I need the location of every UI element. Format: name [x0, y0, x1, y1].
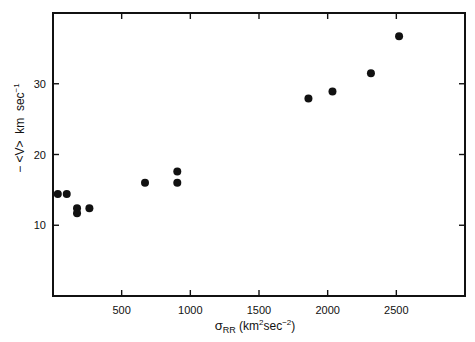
tick-labels: 5001000150020002500102030	[34, 78, 409, 316]
data-point	[328, 88, 336, 96]
y-axis-label-sup: −1	[12, 83, 21, 93]
data-point	[173, 179, 181, 187]
x-tick-label: 1000	[178, 304, 202, 316]
y-tick-label: 30	[34, 78, 46, 90]
x-axis-label-unit-close: )	[291, 319, 295, 333]
x-axis-label: σRR (km2sec−2)	[215, 318, 296, 335]
data-point	[367, 69, 375, 77]
x-axis-label-symbol: σ	[215, 318, 223, 333]
x-axis-label-unit-open: (km	[236, 319, 259, 333]
axis-ticks	[53, 13, 465, 296]
x-tick-label: 2000	[315, 304, 339, 316]
data-point	[304, 95, 312, 103]
x-tick-label: 500	[112, 304, 130, 316]
data-points	[54, 32, 403, 217]
plot-frame	[53, 13, 465, 296]
data-point	[63, 190, 71, 198]
y-axis-label: − <V> km sec−1	[12, 83, 27, 173]
data-point	[85, 204, 93, 212]
data-point	[173, 167, 181, 175]
data-point	[73, 209, 81, 217]
scatter-chart: 5001000150020002500102030 σRR (km2sec−2)…	[0, 0, 475, 342]
data-point	[141, 179, 149, 187]
data-point	[395, 32, 403, 40]
data-point	[54, 190, 62, 198]
x-axis-label-subscript: RR	[223, 325, 236, 335]
x-axis-label-unit-mid: sec	[264, 319, 283, 333]
y-tick-label: 20	[34, 149, 46, 161]
x-tick-label: 1500	[247, 304, 271, 316]
y-axis-label-main: − <V> km sec	[13, 92, 27, 172]
x-tick-label: 2500	[384, 304, 408, 316]
y-tick-label: 10	[34, 219, 46, 231]
